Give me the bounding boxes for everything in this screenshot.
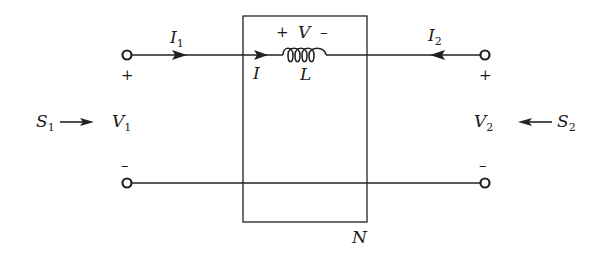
label-i2: I2 xyxy=(427,25,442,48)
inductor-minus-sign: – xyxy=(320,23,328,41)
label-s1: S1 xyxy=(36,111,55,134)
port1-minus-sign: – xyxy=(121,156,129,174)
label-v1: V1 xyxy=(112,111,131,134)
network-box xyxy=(243,16,367,222)
terminal-port2-plus xyxy=(481,51,490,60)
label-i1: I1 xyxy=(169,27,184,50)
inductor-voltage-label: V xyxy=(298,22,312,42)
inductor-label: L xyxy=(299,64,311,84)
terminal-port1-plus xyxy=(123,51,132,60)
terminal-port1-minus xyxy=(123,179,132,188)
port2-minus-sign: – xyxy=(479,156,487,174)
port2-plus-sign: + xyxy=(479,66,492,84)
label-i: I xyxy=(252,63,260,83)
network-label: N xyxy=(351,227,368,247)
inductor-plus-sign: + xyxy=(276,23,289,41)
label-s2: S2 xyxy=(557,111,576,134)
port1-plus-sign: + xyxy=(121,66,134,84)
terminal-port2-minus xyxy=(481,179,490,188)
label-v2: V2 xyxy=(474,111,493,134)
two-port-network-diagram: N I1 I + V – L I2 + – + – V1 S1 V2 S2 xyxy=(0,0,611,259)
inductor-coil xyxy=(283,48,326,62)
